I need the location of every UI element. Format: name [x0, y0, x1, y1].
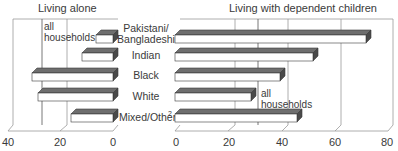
right-floor-20 — [228, 125, 235, 131]
right-bar-black — [175, 68, 285, 81]
right-ref-label-2: households — [261, 99, 312, 110]
right-bar-indian — [175, 48, 318, 61]
category-mixed-footnote: 2 — [168, 110, 172, 117]
right-ref-label-1: all — [261, 88, 271, 99]
left-bar-indian — [82, 48, 118, 61]
category-pakistani-2: Bangladeshi — [117, 33, 175, 45]
left-bars — [32, 30, 118, 122]
category-black: Black — [133, 69, 159, 81]
left-floor-20 — [60, 125, 67, 131]
right-floor-80 — [388, 125, 393, 131]
left-bar-black — [32, 68, 118, 81]
left-ref-label-1: all — [44, 21, 54, 32]
left-floor-40 — [8, 125, 13, 131]
left-bar-mixed — [71, 109, 118, 122]
right-bar-pakistani — [175, 30, 371, 43]
category-labels: Pakistani/ Bangladeshi Indian Black Whit… — [117, 22, 177, 123]
right-bar-mixed — [175, 109, 302, 122]
right-tick-0: 0 — [173, 136, 179, 148]
right-tick-20: 20 — [223, 136, 235, 148]
chart-canvas: Living alone Living with dependent child… — [0, 0, 398, 151]
right-tick-60: 60 — [329, 136, 341, 148]
right-bar-white — [175, 88, 256, 101]
left-bar-white — [38, 88, 118, 101]
right-tick-40: 40 — [276, 136, 288, 148]
left-ref-label-2: households — [44, 32, 95, 43]
left-bar-pakistani — [96, 30, 118, 43]
right-floor-0 — [175, 125, 180, 131]
right-floor-60 — [335, 125, 341, 131]
left-tick-20: 20 — [54, 136, 66, 148]
right-chart-title: Living with dependent children — [229, 2, 377, 14]
left-tick-40: 40 — [2, 136, 14, 148]
category-white: White — [133, 90, 160, 102]
right-floor-40 — [282, 125, 288, 131]
right-tick-80: 80 — [381, 136, 393, 148]
category-indian: Indian — [132, 49, 161, 61]
left-floor-0 — [113, 125, 118, 131]
left-tick-0: 0 — [110, 136, 116, 148]
left-chart-title: Living alone — [38, 2, 97, 14]
